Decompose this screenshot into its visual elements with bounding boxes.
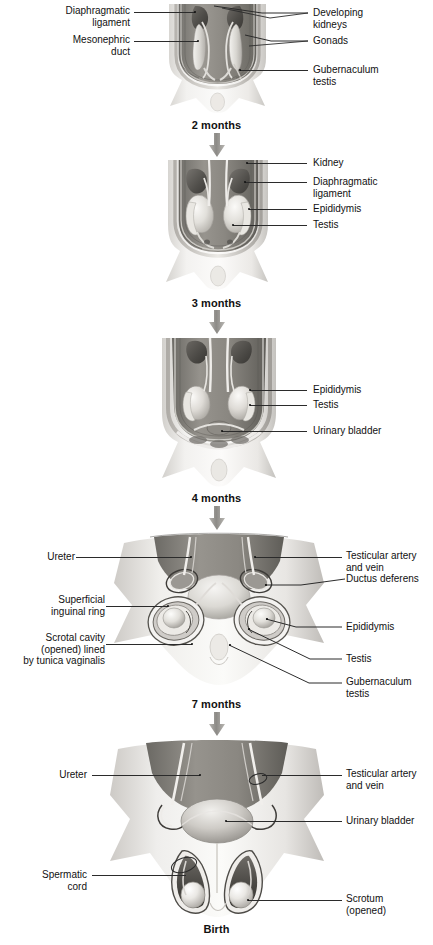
stage-panel-3: Epididymis Testis Urinary bladder 4 mont…	[0, 330, 433, 518]
leader-dot	[249, 404, 251, 406]
stage-panel-5: Ureter Spermatic cord Testicular artery …	[0, 735, 433, 945]
label-scrotal-cavity: Scrotal cavity (opened) lined by tunica …	[0, 632, 105, 667]
leader-line	[248, 900, 342, 901]
label-testis: Testis	[313, 219, 429, 231]
leader-dot	[254, 556, 256, 558]
stage-panel-1: Diaphragmatic ligament Mesonephric duct …	[0, 0, 433, 145]
stage-caption-4-months: 4 months	[0, 492, 433, 504]
stage-caption-3-months: 3 months	[0, 297, 433, 309]
label-gubernaculum-testis: Gubernaculum testis	[313, 64, 431, 87]
leader-line	[210, 4, 308, 26]
leader-line	[226, 821, 342, 822]
leader-dot	[246, 162, 248, 164]
label-superficial-inguinal-ring: Superficial inguinal ring	[0, 594, 105, 617]
label-diaphragmatic-ligament: Diaphragmatic ligament	[313, 176, 429, 199]
leader-line	[92, 875, 186, 876]
leader-dot	[221, 430, 223, 432]
label-kidney: Kidney	[313, 157, 429, 169]
leader-line	[247, 163, 307, 164]
label-epididymis: Epididymis	[346, 621, 433, 633]
leader-dot	[248, 208, 250, 210]
stage-panel-4: Ureter Superficial inguinal ring Scrotal…	[0, 527, 433, 720]
stage-caption-2-months: 2 months	[0, 119, 433, 131]
leader-dot	[190, 556, 192, 558]
label-testicular-artery-and-vein: Testicular artery and vein	[346, 550, 433, 573]
leader-line	[240, 70, 308, 71]
leader-dot	[191, 643, 193, 645]
leader-line	[249, 209, 307, 210]
leader-line	[106, 606, 168, 607]
leader-line	[76, 557, 191, 558]
label-epididymis: Epididymis	[313, 384, 431, 396]
label-ductus-deferens: Ductus deferens	[346, 573, 433, 585]
leader-dot	[199, 774, 201, 776]
label-gubernaculum-testis: Gubernaculum testis	[346, 676, 433, 699]
leader-dot	[197, 40, 199, 42]
leader-line	[262, 775, 342, 776]
stage-caption-7-months: 7 months	[0, 698, 433, 710]
illustration-3-months	[152, 158, 284, 290]
label-testis: Testis	[313, 399, 431, 411]
leader-line	[255, 557, 342, 558]
label-spermatic-cord: Spermatic cord	[1, 869, 87, 892]
leader-line	[92, 775, 200, 776]
leader-line	[250, 405, 307, 406]
leader-dot	[167, 605, 169, 607]
label-epididymis: Epididymis	[313, 203, 429, 215]
label-mesonephric-duct: Mesonephric duct	[18, 34, 130, 57]
illustration-4-months	[144, 336, 294, 488]
label-diaphragmatic-ligament: Diaphragmatic ligament	[18, 5, 130, 28]
label-ureter: Ureter	[0, 551, 75, 563]
leader-dot	[244, 181, 246, 183]
label-testis: Testis	[346, 653, 433, 665]
leader-line	[243, 32, 308, 50]
leader-line	[229, 641, 342, 689]
label-urinary-bladder: Urinary bladder	[346, 815, 433, 827]
label-testicular-artery-and-vein: Testicular artery and vein	[346, 768, 433, 791]
leader-line	[245, 182, 307, 183]
leader-line	[233, 225, 307, 226]
stage-caption-birth: Birth	[0, 923, 433, 935]
leader-line	[134, 41, 198, 42]
leader-dot	[225, 820, 227, 822]
leader-dot	[239, 69, 241, 71]
stage-panel-2: Kidney Diaphragmatic ligament Epididymis…	[0, 152, 433, 320]
label-ureter: Ureter	[1, 769, 87, 781]
leader-dot	[249, 389, 251, 391]
label-urinary-bladder: Urinary bladder	[313, 425, 431, 437]
leader-dot	[194, 11, 196, 13]
label-scrotum-opened: Scrotum (opened)	[346, 893, 433, 916]
leader-line	[222, 431, 307, 432]
figure-descent-of-testes: Diaphragmatic ligament Mesonephric duct …	[0, 0, 433, 945]
leader-line	[265, 577, 345, 589]
leader-dot	[232, 224, 234, 226]
leader-line	[134, 12, 195, 13]
label-gonads: Gonads	[313, 35, 429, 47]
leader-line	[106, 644, 192, 645]
label-developing-kidneys: Developing kidneys	[313, 7, 429, 30]
leader-dot	[247, 899, 249, 901]
illustration-birth	[106, 743, 328, 923]
leader-line	[250, 390, 307, 391]
